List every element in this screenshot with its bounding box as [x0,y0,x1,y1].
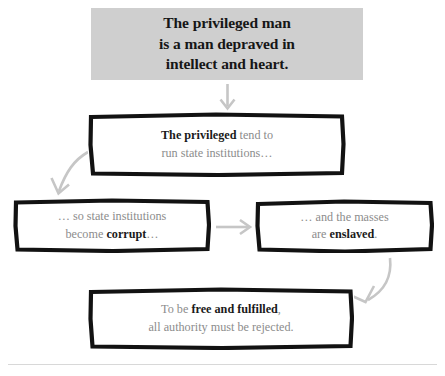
node-line-1-rest: tend to [236,128,273,142]
header-line-2: is a man depraved in [159,35,295,52]
node-line-1-tail: , [278,302,281,316]
header-line-1: The privileged man [163,14,290,31]
arrow-header-to-node2 [221,84,235,109]
node-line-1: … so state institutions [58,209,167,223]
node-masses-are-enslaved: … and the masses are enslaved. [255,199,434,253]
node-line-2: run state institutions… [161,146,272,160]
node-reject-all-authority: To be free and fulfilled, all authority … [88,287,354,350]
node-bold: enslaved [330,227,375,241]
node-bold-lead: The privileged [161,128,237,142]
header-banner: The privileged man is a man depraved in … [91,8,363,80]
node-label: … and the masses are enslaved. [290,209,398,244]
diagram-canvas: The privileged man is a man depraved in … [0,0,445,376]
node-line-2-tail: . [374,227,377,241]
arrow-node3-to-node4 [216,220,250,234]
node-bold: free and fulfilled [191,302,277,316]
bottom-divider [8,364,437,365]
arrow-node4-to-node5 [350,258,390,302]
node-label: To be free and fulfilled, all authority … [138,301,303,336]
header-title: The privileged man is a man depraved in … [151,13,303,75]
node-bold: corrupt [106,227,146,241]
node-line-1-lead: To be [161,302,191,316]
node-label: … so state institutions become corrupt… [48,208,177,243]
header-line-3: intellect and heart. [166,55,288,72]
arrow-node2-to-node3 [52,152,89,194]
node-privileged-run-institutions: The privileged tend to run state institu… [88,112,346,177]
node-label: The privileged tend to run state institu… [151,127,283,162]
node-line-2-lead: are [312,227,330,241]
node-line-2: all authority must be rejected. [148,320,293,334]
node-line-2-lead: become [65,227,106,241]
node-institutions-become-corrupt: … so state institutions become corrupt… [13,198,211,253]
node-line-1: … and the masses [300,210,388,224]
node-line-2-tail: … [146,227,158,241]
